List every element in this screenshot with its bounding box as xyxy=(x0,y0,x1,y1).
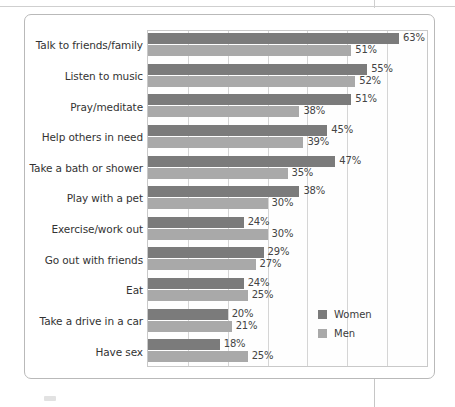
category-label: Take a bath or shower xyxy=(30,162,144,174)
bar-row: Exercise/work out24%30% xyxy=(25,214,436,245)
bar-men xyxy=(148,45,351,56)
bar-group: 51%38% xyxy=(148,91,428,122)
category-label: Go out with friends xyxy=(45,254,143,266)
bar-women xyxy=(148,247,264,258)
category-label: Talk to friends/family xyxy=(36,39,143,51)
bar-row: Play with a pet38%30% xyxy=(25,183,436,214)
bar-value-men: 30% xyxy=(272,228,294,239)
bar-men xyxy=(148,168,288,179)
bar-value-men: 52% xyxy=(359,75,381,86)
bar-row: Pray/meditate51%38% xyxy=(25,91,436,122)
bar-value-men: 51% xyxy=(355,44,377,55)
category-label: Listen to music xyxy=(65,70,143,82)
bar-women xyxy=(148,278,244,289)
bar-group: 55%52% xyxy=(148,61,428,92)
bar-men xyxy=(148,106,299,117)
bar-value-men: 35% xyxy=(292,167,314,178)
bar-women xyxy=(148,64,367,75)
bar-group: 63%51% xyxy=(148,30,428,61)
bar-value-women: 24% xyxy=(248,277,270,288)
legend-item: Women xyxy=(318,306,408,322)
bar-women xyxy=(148,94,351,105)
bar-group: 38%30% xyxy=(148,183,428,214)
bar-value-men: 39% xyxy=(307,136,329,147)
bar-row: Go out with friends29%27% xyxy=(25,244,436,275)
bar-row: Help others in need45%39% xyxy=(25,122,436,153)
bar-value-women: 55% xyxy=(371,63,393,74)
bar-value-men: 27% xyxy=(260,258,282,269)
category-label: Eat xyxy=(126,284,143,296)
bar-men xyxy=(148,351,248,362)
bar-men xyxy=(148,76,355,87)
bar-women xyxy=(148,33,399,44)
bar-men xyxy=(148,259,256,270)
bar-value-women: 51% xyxy=(355,93,377,104)
bar-value-women: 45% xyxy=(331,124,353,135)
category-label: Pray/meditate xyxy=(70,101,143,113)
bar-value-women: 20% xyxy=(232,308,254,319)
bar-women xyxy=(148,309,228,320)
legend-item: Men xyxy=(318,325,408,341)
bar-row: Eat24%25% xyxy=(25,275,436,306)
bar-value-women: 63% xyxy=(403,32,425,43)
bar-group: 29%27% xyxy=(148,244,428,275)
bar-value-women: 29% xyxy=(268,246,290,257)
bar-value-women: 47% xyxy=(339,155,361,166)
legend-label: Men xyxy=(334,328,355,339)
bar-women xyxy=(148,186,299,197)
bar-row: Take a bath or shower47%35% xyxy=(25,153,436,184)
legend-swatch-icon xyxy=(318,329,327,338)
bar-women xyxy=(148,339,220,350)
bar-group: 24%30% xyxy=(148,214,428,245)
category-label: Help others in need xyxy=(42,131,143,143)
bar-value-men: 21% xyxy=(236,320,258,331)
bar-value-men: 38% xyxy=(303,105,325,116)
legend-swatch-icon xyxy=(318,310,327,319)
category-label: Have sex xyxy=(95,346,143,358)
bar-value-men: 25% xyxy=(252,350,274,361)
bar-value-men: 25% xyxy=(252,289,274,300)
legend-label: Women xyxy=(334,309,372,320)
bar-value-men: 30% xyxy=(272,197,294,208)
category-label: Exercise/work out xyxy=(52,223,143,235)
bar-value-women: 18% xyxy=(224,338,246,349)
bar-group: 24%25% xyxy=(148,275,428,306)
page-edge-right-line-upper xyxy=(374,0,375,8)
bar-group: 45%39% xyxy=(148,122,428,153)
bar-men xyxy=(148,229,268,240)
category-label: Play with a pet xyxy=(67,192,143,204)
bar-men xyxy=(148,290,248,301)
bar-men xyxy=(148,321,232,332)
bar-men xyxy=(148,137,303,148)
bar-row: Listen to music55%52% xyxy=(25,61,436,92)
page-edge-top-line xyxy=(0,6,455,7)
bar-value-women: 24% xyxy=(248,216,270,227)
chart-legend: WomenMen xyxy=(318,306,408,344)
page-edge-right-line-lower xyxy=(374,378,375,407)
page-scan-artifact xyxy=(44,396,56,401)
chart-frame: Talk to friends/family63%51%Listen to mu… xyxy=(24,14,435,379)
bar-women xyxy=(148,156,335,167)
bar-women xyxy=(148,217,244,228)
bar-value-women: 38% xyxy=(303,185,325,196)
bar-women xyxy=(148,125,327,136)
bar-men xyxy=(148,198,268,209)
chart-inner: Talk to friends/family63%51%Listen to mu… xyxy=(25,15,436,380)
bar-row: Talk to friends/family63%51% xyxy=(25,30,436,61)
category-label: Take a drive in a car xyxy=(40,315,143,327)
bar-group: 47%35% xyxy=(148,153,428,184)
